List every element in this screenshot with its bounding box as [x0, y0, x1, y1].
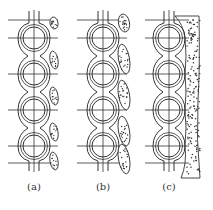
slag-deposit [49, 16, 59, 29]
panel-c [145, 10, 201, 178]
panel-label-a: (a) [27, 181, 41, 192]
slag-layer [175, 16, 201, 178]
panel-label-c: (c) [162, 181, 175, 192]
slag-deposit [48, 122, 59, 141]
slag-deposit [116, 143, 132, 174]
panel-b [77, 10, 132, 175]
slag-deposit [48, 50, 59, 69]
panel-label-b: (b) [96, 181, 110, 192]
slag-deposit [48, 86, 59, 105]
slag-deposit [117, 13, 131, 33]
membrane-wall-diagram [0, 0, 213, 210]
slag-deposit [48, 151, 59, 170]
panel-a [8, 10, 60, 172]
